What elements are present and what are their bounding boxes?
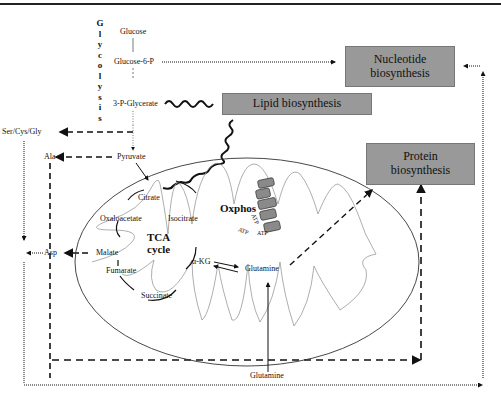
lipid-box-label: Lipid biosynthesis <box>253 97 341 111</box>
glycolysis-letter: l <box>95 29 105 40</box>
oxphos-complexes <box>255 177 281 232</box>
3-p-glycerate-label: 3-P-Glycerate <box>113 100 158 108</box>
malate-label: Malate <box>96 249 118 257</box>
squiggle-3pg-lipid <box>165 101 213 107</box>
succinate-label: Succinate <box>141 292 172 300</box>
asp-label: Asp <box>44 249 57 257</box>
oxphos-label: Oxphos <box>220 203 256 214</box>
ala-label: Ala <box>44 153 56 161</box>
glycolysis-letter: c <box>95 50 105 61</box>
protein-box-line2: biosynthesis <box>391 163 450 177</box>
alpha-kg-label: α-KG <box>192 258 210 266</box>
glycolysis-letter: G <box>95 18 105 29</box>
glutamine-to-akg-arrow <box>214 266 238 272</box>
nucleotide-box-line2: biosynthesis <box>370 66 429 80</box>
glucose-label: Glucose <box>120 28 146 36</box>
pyruvate-label: Pyruvate <box>117 153 145 161</box>
tca-cycle-title: TCAcycle <box>147 231 170 255</box>
squiggle-lipid-mito <box>163 120 233 189</box>
glutamine-to-protein-arrow <box>290 190 372 265</box>
tca-title-line2: cycle <box>147 243 170 255</box>
glucose-6-p-label: Glucose-6-P <box>114 58 154 66</box>
oxaloacetate-label: Oxaloacetate <box>100 215 142 223</box>
ser-cys-gly-label: Ser/Cys/Gly <box>2 128 42 136</box>
protein-biosynthesis-box: Proteinbiosynthesis <box>366 143 475 185</box>
glycolysis-letter: o <box>95 60 105 71</box>
glycolysis-letter: y <box>95 39 105 50</box>
nucleotide-biosynthesis-box: Nucleotidebiosynthesis <box>345 46 455 87</box>
nucleotide-box-line1: Nucleotide <box>374 52 427 66</box>
glycolysis-label: G l y c o l y s i s <box>95 18 105 123</box>
glycolysis-letter: s <box>95 92 105 103</box>
glutamine-outer-label: Glutamine <box>250 372 284 380</box>
tca-title-line1: TCA <box>147 231 170 243</box>
mitochondrion-outer-membrane <box>75 158 419 366</box>
glycolysis-letter: y <box>95 81 105 92</box>
glutamine-inner-label: Glutamine <box>245 265 279 273</box>
glycolysis-letter: l <box>95 71 105 82</box>
isocitrate-label: Isocitrate <box>168 215 198 223</box>
atp-label-3: ATP <box>257 230 268 236</box>
fumarate-label: Fumarate <box>106 267 136 275</box>
glycolysis-letter: s <box>95 113 105 124</box>
glycolysis-letter: i <box>95 102 105 113</box>
lipid-biosynthesis-box: Lipid biosynthesis <box>222 93 372 115</box>
protein-box-line1: Protein <box>403 149 438 163</box>
citrate-label: Citrate <box>138 194 160 202</box>
pyruvate-to-citrate-arrow <box>136 163 148 180</box>
cristae <box>92 163 376 326</box>
